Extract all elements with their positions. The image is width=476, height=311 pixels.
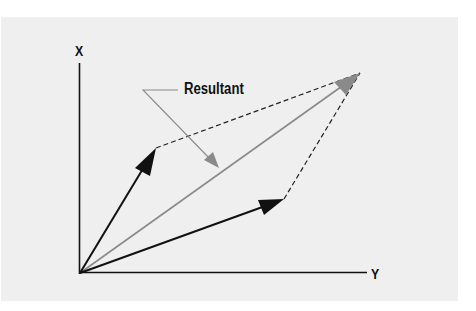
- dashed-line-right: [284, 73, 360, 199]
- vector-diagram: [0, 0, 476, 311]
- vector-b-arrowhead-icon: [258, 199, 284, 215]
- resultant-vector-line: [80, 84, 345, 273]
- resultant-label: Resultant: [184, 80, 244, 98]
- vector-a-line: [80, 162, 147, 273]
- vector-b-line: [80, 205, 268, 273]
- resultant-arrowhead-icon: [334, 73, 360, 95]
- resultant-leader-line: [143, 90, 211, 160]
- axis-label-y: Y: [371, 265, 379, 282]
- vector-a-arrowhead-icon: [135, 148, 156, 176]
- axis-label-x: X: [75, 42, 83, 59]
